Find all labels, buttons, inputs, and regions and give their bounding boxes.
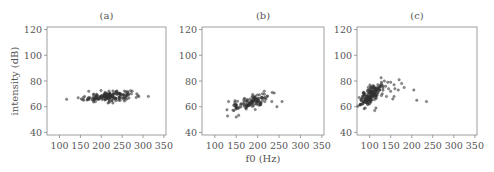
x-tick-label: 200 — [403, 140, 421, 151]
data-point — [265, 98, 268, 101]
x-tick-label: 200 — [249, 140, 267, 151]
data-point — [273, 92, 276, 95]
data-point — [95, 94, 98, 97]
data-point — [82, 99, 85, 102]
panel-title: (b) — [256, 10, 270, 21]
y-tick-label: 100 — [179, 50, 197, 61]
data-point — [94, 100, 97, 103]
x-tick-label: 150 — [227, 140, 245, 151]
data-point — [369, 100, 372, 103]
data-point — [382, 89, 385, 92]
data-point — [372, 85, 375, 88]
data-point — [425, 100, 428, 103]
data-point — [246, 99, 249, 102]
data-point — [237, 114, 240, 117]
data-point — [259, 104, 262, 107]
data-point — [243, 99, 246, 102]
y-tick-label: 60 — [30, 101, 42, 112]
data-point — [236, 100, 239, 103]
data-point — [112, 96, 115, 99]
data-point — [235, 108, 238, 111]
data-point — [261, 99, 264, 102]
y-tick-label: 80 — [30, 76, 42, 87]
data-point — [375, 107, 378, 110]
y-tick-label: 80 — [185, 76, 197, 87]
x-tick-label: 250 — [424, 140, 442, 151]
data-point — [386, 81, 389, 84]
y-tick-label: 80 — [340, 76, 352, 87]
data-point — [136, 93, 139, 96]
scatter-points — [65, 89, 149, 104]
data-point — [258, 97, 261, 100]
data-point — [266, 95, 269, 98]
data-point — [117, 92, 120, 95]
data-point — [365, 101, 368, 104]
plot-frame — [357, 27, 477, 135]
data-point — [104, 91, 107, 94]
data-point — [263, 90, 266, 93]
y-tick-label: 100 — [334, 50, 352, 61]
data-point — [377, 87, 380, 90]
data-point — [112, 90, 115, 93]
scatter-points — [357, 76, 428, 111]
y-tick-label: 40 — [30, 127, 42, 138]
data-point — [243, 105, 246, 108]
data-point — [416, 99, 419, 102]
x-tick-label: 150 — [382, 140, 400, 151]
data-point — [387, 87, 390, 90]
data-point — [112, 93, 115, 96]
plot-frame — [202, 27, 324, 135]
y-tick-label: 100 — [24, 50, 42, 61]
data-point — [108, 90, 111, 93]
data-point — [367, 92, 370, 95]
plot-frame — [47, 27, 166, 135]
x-tick-label: 100 — [50, 140, 68, 151]
data-point — [373, 109, 376, 112]
data-point — [80, 98, 83, 101]
data-point — [111, 100, 114, 103]
data-point — [138, 95, 141, 98]
data-point — [77, 97, 80, 100]
x-tick-label: 350 — [155, 140, 173, 151]
data-point — [398, 78, 401, 81]
data-point — [397, 89, 400, 92]
data-point — [380, 81, 383, 84]
data-point — [371, 93, 374, 96]
y-tick-label: 60 — [340, 101, 352, 112]
data-point — [380, 76, 383, 79]
data-point — [261, 96, 264, 99]
data-point — [83, 95, 86, 98]
y-tick-label: 60 — [185, 101, 197, 112]
data-point — [107, 95, 110, 98]
data-point — [403, 86, 406, 89]
x-tick-label: 250 — [270, 140, 288, 151]
y-tick-label: 40 — [340, 127, 352, 138]
data-point — [367, 97, 370, 100]
data-point — [373, 96, 376, 99]
data-point — [125, 98, 128, 101]
data-point — [358, 96, 361, 99]
data-point — [255, 101, 258, 104]
x-tick-label: 300 — [445, 140, 463, 151]
data-point — [366, 89, 369, 92]
data-point — [130, 93, 133, 96]
panel-a: 406080100120100150200250300350(a)intensi… — [9, 10, 173, 151]
data-point — [369, 84, 372, 87]
data-point — [374, 94, 377, 97]
data-point — [65, 98, 68, 101]
x-tick-label: 250 — [113, 140, 131, 151]
data-point — [101, 98, 104, 101]
data-point — [385, 95, 388, 98]
data-point — [93, 93, 96, 96]
data-point — [123, 94, 126, 97]
x-tick-label: 300 — [134, 140, 152, 151]
data-point — [393, 84, 396, 87]
data-point — [100, 89, 103, 92]
data-point — [123, 96, 126, 99]
figure: 406080100120100150200250300350(a)intensi… — [0, 0, 494, 172]
data-point — [271, 100, 274, 103]
panel-c: 406080100120100150200250300350(c) — [334, 10, 484, 151]
data-point — [264, 100, 267, 103]
data-point — [123, 90, 126, 93]
data-point — [381, 93, 384, 96]
